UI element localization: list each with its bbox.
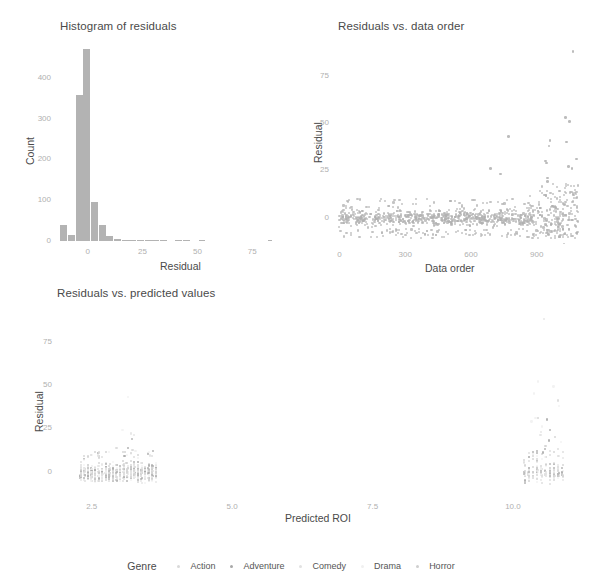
y-tick-label: 300 [23,114,51,123]
scatter-point [491,219,493,221]
scatter-point [565,192,567,194]
scatter-point [415,232,417,234]
scatter-point [493,214,495,216]
scatter-point [124,451,126,453]
scatter-point [510,229,512,231]
scatter-point [126,472,128,474]
scatter-point [551,219,553,221]
panel-histogram-of-residuals: Histogram of residuals Count Residual 01… [0,0,295,284]
scatter-point [98,480,100,482]
scatter-point [571,213,573,215]
scatter-point [131,438,133,440]
scatter-point [438,229,440,231]
scatter-point [570,210,572,212]
scatter-point [568,212,570,214]
scatter-point [473,199,475,201]
scatter-point [367,226,369,228]
scatter-point [492,226,494,228]
scatter-point [144,466,146,468]
data-order-plot-area [335,44,585,244]
scatter-point [398,199,400,201]
scatter-point [549,463,551,465]
scatter-point [126,475,128,477]
scatter-point [530,216,532,218]
y-tick-label: 25 [24,423,52,432]
scatter-point [564,187,566,189]
scatter-point [404,234,406,236]
scatter-point [555,224,557,226]
scatter-point [418,217,420,219]
scatter-point [564,116,567,119]
scatter-point [361,222,363,224]
scatter-point [433,223,435,225]
legend-item[interactable]: Action [171,558,216,574]
scatter-point [568,120,571,123]
histogram-bar [145,240,152,241]
scatter-point [557,399,559,401]
legend-point-icon [171,558,187,574]
scatter-point [383,218,385,220]
legend-item[interactable]: Comedy [293,558,347,574]
scatter-point [368,206,370,208]
scatter-point [123,470,125,472]
scatter-point [426,198,428,200]
scatter-point [362,219,364,221]
scatter-point [528,475,530,477]
scatter-point [554,436,556,438]
scatter-point [454,200,456,202]
scatter-point [80,475,82,477]
scatter-point [557,448,559,450]
scatter-point [549,470,551,472]
scatter-point [415,198,417,200]
scatter-point [141,472,143,474]
scatter-point [567,219,569,221]
scatter-point [80,479,82,481]
scatter-point [392,215,394,217]
scatter-point [500,218,502,220]
scatter-point [393,212,395,214]
scatter-point [450,215,452,217]
scatter-point [151,480,153,482]
scatter-point [562,228,564,230]
scatter-point [401,203,403,205]
scatter-point [391,231,393,233]
legend-item[interactable]: Horror [409,558,455,574]
scatter-point [448,220,450,222]
scatter-point [499,173,502,176]
scatter-point [350,215,352,217]
scatter-point [127,447,129,449]
legend-item[interactable]: Adventure [224,558,285,574]
scatter-point [350,206,352,208]
histogram-bar [183,240,190,241]
scatter-point [484,234,486,236]
scatter-point [105,479,107,481]
scatter-point [116,480,118,482]
scatter-point [511,213,513,215]
legend-item[interactable]: Drama [354,558,401,574]
x-tick-label: 10.0 [493,502,533,511]
scatter-point [564,232,566,234]
x-tick-label: 900 [517,250,557,259]
scatter-point [433,216,435,218]
scatter-point [112,477,114,479]
legend-point-icon [354,558,370,574]
scatter-point [550,237,552,239]
scatter-point [432,220,434,222]
scatter-point [524,464,526,466]
scatter-point [478,218,480,220]
scatter-point [537,217,539,219]
scatter-point [455,214,457,216]
legend-entries: ActionAdventureComedyDramaHorror [171,558,463,574]
scatter-point [506,199,508,201]
scatter-point [84,474,86,476]
scatter-point [422,211,424,213]
scatter-point [541,185,543,187]
scatter-point [83,464,85,466]
legend-item-label: Horror [429,561,455,571]
scatter-point [433,213,435,215]
scatter-point [563,194,565,196]
scatter-point [548,145,551,148]
scatter-point [567,184,569,186]
scatter-point [545,235,547,237]
scatter-point [87,475,89,477]
